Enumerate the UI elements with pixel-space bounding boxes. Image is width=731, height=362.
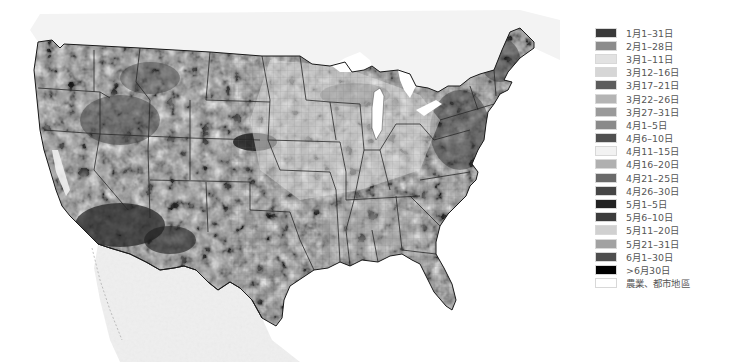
legend-swatch bbox=[595, 199, 617, 209]
legend-swatch bbox=[595, 186, 617, 196]
legend-label: >6月30日 bbox=[626, 263, 670, 277]
legend-item: 4月16–20日 bbox=[595, 158, 731, 171]
legend-item: >6月30日 bbox=[595, 263, 731, 276]
legend: 1月1–31日2月1–28日3月1–11日3月12–16日3月17–21日3月2… bbox=[595, 26, 731, 290]
legend-item: 4月1–5日 bbox=[595, 118, 731, 131]
legend-label: 5月6–10日 bbox=[626, 210, 673, 224]
legend-item: 5月11–20日 bbox=[595, 224, 731, 237]
legend-label: 4月6–10日 bbox=[626, 131, 673, 145]
legend-label: 3月17–21日 bbox=[626, 78, 679, 92]
legend-label: 3月12–16日 bbox=[626, 65, 679, 79]
legend-swatch bbox=[595, 133, 617, 143]
legend-swatch bbox=[595, 159, 617, 169]
legend-swatch bbox=[595, 54, 617, 64]
legend-item: 5月6–10日 bbox=[595, 211, 731, 224]
legend-label: 3月27–31日 bbox=[626, 105, 679, 119]
legend-swatch bbox=[595, 80, 617, 90]
legend-swatch bbox=[595, 107, 617, 117]
legend-label: 5月1–5日 bbox=[626, 197, 667, 211]
legend-item: 1月1–31日 bbox=[595, 26, 731, 39]
legend-swatch bbox=[595, 212, 617, 222]
legend-swatch bbox=[595, 120, 617, 130]
legend-item: 3月12–16日 bbox=[595, 66, 731, 79]
legend-label: 3月1–11日 bbox=[626, 52, 673, 66]
legend-label: 5月11–20日 bbox=[626, 223, 679, 237]
legend-item: 3月22–26日 bbox=[595, 92, 731, 105]
legend-label: 5月21–31日 bbox=[626, 237, 679, 251]
legend-swatch bbox=[595, 28, 617, 38]
legend-item: 3月27–31日 bbox=[595, 105, 731, 118]
legend-swatch bbox=[595, 225, 617, 235]
legend-swatch bbox=[595, 41, 617, 51]
legend-label: 4月16–20日 bbox=[626, 157, 679, 171]
legend-label: 4月21–25日 bbox=[626, 171, 679, 185]
legend-item: 5月21–31日 bbox=[595, 237, 731, 250]
legend-swatch bbox=[595, 146, 617, 156]
us-map bbox=[0, 0, 590, 362]
legend-swatch bbox=[595, 94, 617, 104]
legend-item: 4月11–15日 bbox=[595, 145, 731, 158]
legend-item: 5月1–5日 bbox=[595, 197, 731, 210]
legend-swatch bbox=[595, 265, 617, 275]
legend-item: 農業、都市地區 bbox=[595, 277, 731, 290]
legend-swatch bbox=[595, 67, 617, 77]
legend-label: 4月1–5日 bbox=[626, 118, 667, 132]
legend-swatch bbox=[595, 239, 617, 249]
legend-swatch bbox=[595, 173, 617, 183]
legend-item: 6月1–30日 bbox=[595, 250, 731, 263]
legend-label: 1月1–31日 bbox=[626, 26, 673, 40]
legend-label: 4月11–15日 bbox=[626, 144, 679, 158]
legend-swatch bbox=[595, 252, 617, 262]
legend-label: 3月22–26日 bbox=[626, 92, 679, 106]
legend-label: 農業、都市地區 bbox=[626, 276, 690, 290]
legend-label: 4月26–30日 bbox=[626, 184, 679, 198]
legend-item: 3月1–11日 bbox=[595, 52, 731, 65]
legend-label: 2月1–28日 bbox=[626, 39, 673, 53]
legend-item: 4月21–25日 bbox=[595, 171, 731, 184]
legend-item: 3月17–21日 bbox=[595, 79, 731, 92]
legend-item: 2月1–28日 bbox=[595, 39, 731, 52]
legend-item: 4月6–10日 bbox=[595, 132, 731, 145]
legend-label: 6月1–30日 bbox=[626, 250, 673, 264]
legend-item: 4月26–30日 bbox=[595, 184, 731, 197]
legend-swatch bbox=[595, 278, 617, 288]
